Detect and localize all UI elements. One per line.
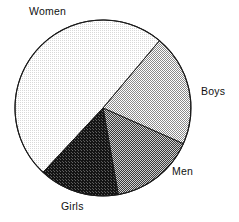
pie-label-women: Women	[29, 5, 66, 17]
pie-label-boys: Boys	[201, 85, 225, 97]
pie-chart-canvas	[0, 0, 239, 222]
pie-label-girls: Girls	[61, 200, 84, 212]
pie-chart: Women Boys Men Girls	[0, 0, 239, 222]
pie-slices	[15, 20, 191, 196]
pie-label-men: Men	[172, 165, 193, 177]
